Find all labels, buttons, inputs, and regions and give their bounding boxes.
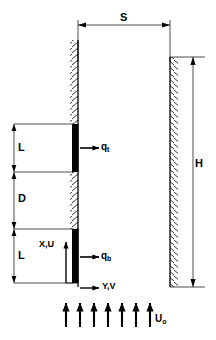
label-inlet-velocity-subscript: o: [162, 318, 166, 325]
label-length-bottom-l: L: [18, 250, 25, 261]
heat-source-top: [72, 124, 79, 172]
left-wall-hatch-upper: [70, 40, 78, 124]
label-flux-top-subscript: t: [107, 146, 109, 153]
right-wall-hatch: [170, 57, 178, 287]
heat-source-bottom: [72, 229, 79, 283]
left-wall-hatch-middle: [70, 172, 78, 229]
dimension-s: [78, 20, 170, 62]
right-wall: [170, 57, 178, 287]
label-axis-y: Y,V: [102, 282, 116, 291]
inlet-flow-arrows: [66, 303, 150, 327]
label-flux-bottom: qb: [101, 251, 111, 261]
coordinate-axes: [66, 242, 99, 288]
label-flux-bottom-subscript: b: [107, 255, 111, 262]
label-length-top-l: L: [18, 142, 25, 153]
label-inlet-velocity: Uo: [155, 314, 167, 324]
label-height-h: H: [195, 158, 203, 169]
label-spacing-s: S: [120, 12, 127, 23]
label-gap-d: D: [18, 193, 26, 204]
label-flux-top: qt: [101, 142, 109, 152]
label-axis-x: X,U: [39, 240, 54, 249]
